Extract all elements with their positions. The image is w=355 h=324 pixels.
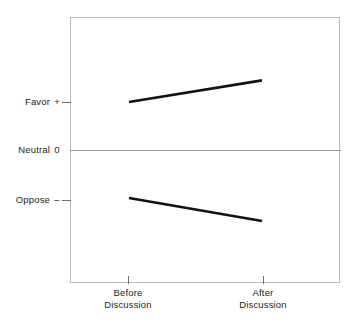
y-axis-tick-oppose bbox=[62, 200, 71, 201]
y-axis-label-favor: Favor+ bbox=[0, 96, 60, 107]
x-axis-label-after-line2: Discussion bbox=[198, 299, 328, 311]
y-axis-label-neutral: Neutral0 bbox=[0, 144, 60, 155]
y-axis-label-oppose-text: Oppose bbox=[16, 194, 50, 205]
y-axis-label-oppose-sign: – bbox=[54, 194, 60, 205]
x-axis-label-before: Before Discussion bbox=[63, 287, 193, 310]
x-axis-label-after-line1: After bbox=[198, 287, 328, 299]
y-axis-label-neutral-text: Neutral bbox=[18, 144, 50, 155]
x-axis-tick-after bbox=[263, 276, 264, 284]
x-axis-label-before-line2: Discussion bbox=[63, 299, 193, 311]
y-axis-label-neutral-sign: 0 bbox=[54, 144, 60, 155]
y-axis-label-favor-text: Favor bbox=[25, 96, 50, 107]
group-polarization-chart: Favor+ Neutral0 Oppose– Before Discussio… bbox=[0, 0, 355, 324]
x-axis-label-before-line1: Before bbox=[63, 287, 193, 299]
x-axis-tick-before bbox=[128, 276, 129, 284]
y-axis-label-oppose: Oppose– bbox=[0, 194, 60, 205]
x-axis-label-after: After Discussion bbox=[198, 287, 328, 310]
y-axis-tick-favor bbox=[62, 102, 71, 103]
neutral-zero-reference-line bbox=[70, 150, 341, 151]
y-axis-label-favor-sign: + bbox=[54, 96, 60, 107]
